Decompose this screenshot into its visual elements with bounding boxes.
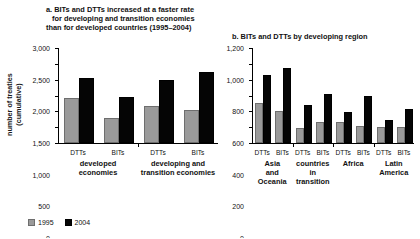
legend: 1995 2004 (28, 219, 90, 226)
bar (255, 103, 263, 143)
x-tick-label: BITs (357, 149, 370, 156)
panel-b-title-line1: b. BITs and DTTs by developing region (232, 32, 417, 41)
panel-a-title-line3: than for developed countries (1995–2004) (46, 23, 216, 32)
x-tick-label: DTTs (335, 149, 350, 156)
group-label: AsiaandOceania (258, 159, 287, 186)
group-label-line: Africa (343, 159, 364, 168)
y-tick-label: 1,000 (226, 76, 244, 83)
group-label: countriesintransition (296, 159, 330, 186)
bar (324, 94, 332, 143)
y-tick: 1,500 (55, 96, 58, 97)
y-tick: 800 (249, 80, 252, 81)
group-label-line: developing and (141, 159, 215, 168)
y-tick-label: 1,200 (226, 45, 244, 52)
legend-swatch-2004 (65, 219, 72, 226)
y-tick-label: 200 (232, 203, 244, 210)
panel-a-title-line1: a. BITs and DTTs increased at a faster r… (46, 5, 216, 14)
bar (184, 110, 199, 143)
y-tick-label: 600 (232, 140, 244, 147)
x-tick-label: BITs (112, 149, 125, 156)
group-label-line: developed (79, 159, 118, 168)
y-tick-label: 3,000 (32, 45, 50, 52)
x-tick-label: DTTs (376, 149, 391, 156)
bar (119, 97, 134, 143)
y-tick: 1,000 (249, 64, 252, 65)
group-label-line: countries (296, 159, 330, 168)
bar (144, 106, 159, 143)
y-tick: 2,000 (55, 80, 58, 81)
y-tick: 500 (55, 127, 58, 128)
y-tick-label: 0 (240, 235, 244, 239)
y-tick: 200 (249, 127, 252, 128)
bar (356, 126, 364, 143)
legend-item-2004: 2004 (65, 219, 91, 226)
group-separator-tick (138, 143, 139, 147)
group-label-line: America (379, 168, 408, 177)
y-axis-label-line2: (cumulative) (15, 59, 24, 151)
figure: a. BITs and DTTs increased at a faster r… (0, 0, 420, 238)
y-tick-label: 1,500 (32, 140, 50, 147)
bar (159, 80, 174, 143)
group-separator-tick (374, 143, 375, 147)
bar (79, 78, 94, 143)
y-axis-label: number of treaties (cumulative) (6, 59, 23, 151)
group-label-line: Asia (258, 159, 287, 168)
panel-a-title: a. BITs and DTTs increased at a faster r… (46, 5, 216, 33)
bar (397, 127, 405, 143)
y-tick: 400 (249, 111, 252, 112)
legend-label-1995: 1995 (38, 219, 54, 226)
x-tick-label: BITs (316, 149, 329, 156)
group-label-line: transition (296, 177, 330, 186)
group-label: LatinAmerica (379, 159, 408, 177)
bar (336, 122, 344, 143)
y-tick: 600 (249, 96, 252, 97)
panel-b-plot: 02004006008001,0001,200 (252, 48, 414, 144)
group-label-line: economies (79, 168, 118, 177)
y-tick-label: 2,500 (32, 76, 50, 83)
bar (377, 127, 385, 143)
bar (316, 122, 324, 143)
group-label-line: Oceania (258, 177, 287, 186)
panel-a-plot: 05001,0001,5002,0002,5003,000 (58, 48, 218, 144)
group-label-line: transition economies (141, 168, 215, 177)
panel-a-bars (59, 48, 218, 143)
y-tick: 2,500 (55, 64, 58, 65)
x-tick-label: DTTs (295, 149, 310, 156)
bar (364, 96, 372, 143)
bar (405, 109, 413, 143)
group-label-line: Latin (379, 159, 408, 168)
group-separator-tick (333, 143, 334, 147)
bar (385, 120, 393, 143)
y-tick-label: 0 (46, 235, 50, 239)
bar (104, 118, 119, 143)
x-tick-label: BITs (397, 149, 410, 156)
bar (296, 128, 304, 143)
x-tick-label: DTTs (150, 149, 165, 156)
y-tick-label: 800 (232, 108, 244, 115)
group-label: developedeconomies (79, 159, 118, 177)
legend-label-2004: 2004 (75, 219, 91, 226)
group-label-line: in (296, 168, 330, 177)
bar (344, 112, 352, 143)
y-tick-label: 1,000 (32, 171, 50, 178)
group-label: developing andtransition economies (141, 159, 215, 177)
y-tick-label: 2,000 (32, 108, 50, 115)
y-tick-label: 500 (38, 203, 50, 210)
bar (275, 111, 283, 143)
panel-a-title-line2: for developing and transition economies (46, 14, 216, 23)
y-tick: 3,000 (55, 48, 58, 49)
bar (199, 72, 214, 143)
bar (283, 68, 291, 143)
group-separator-tick (293, 143, 294, 147)
y-tick: 1,000 (55, 111, 58, 112)
bar (64, 98, 79, 143)
x-tick-label: BITs (192, 149, 205, 156)
x-tick-label: BITs (276, 149, 289, 156)
group-label: Africa (343, 159, 364, 168)
y-tick: 0 (55, 143, 58, 144)
panel-b-title: b. BITs and DTTs by developing region (232, 32, 417, 41)
legend-swatch-1995 (28, 219, 35, 226)
y-tick: 0 (249, 143, 252, 144)
group-label-line: and (258, 168, 287, 177)
bar (263, 75, 271, 143)
